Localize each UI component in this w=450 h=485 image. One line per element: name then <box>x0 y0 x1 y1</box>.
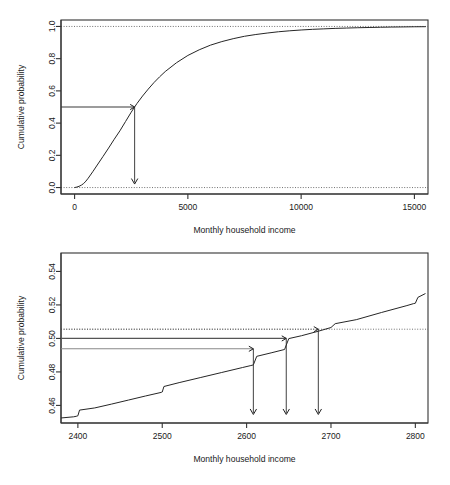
x-tick-label: 0 <box>72 202 77 212</box>
x-tick-label: 5000 <box>178 202 197 212</box>
y-tick-label: 0.54 <box>47 263 57 280</box>
x-tick-label: 2500 <box>153 431 172 441</box>
y-axis-title: Cumulative probability <box>16 64 26 149</box>
y-tick-label: 0.8 <box>47 52 57 64</box>
y-tick-label: 0.6 <box>47 85 57 97</box>
x-tick-label: 15000 <box>403 202 427 212</box>
chart-panel-zoom: 240025002600270028000.460.480.500.520.54… <box>0 243 450 485</box>
y-tick-label: 0.50 <box>47 330 57 347</box>
x-tick-label: 2600 <box>237 431 256 441</box>
y-tick-label: 0.2 <box>47 149 57 161</box>
y-tick-label: 0.52 <box>47 296 57 313</box>
cdf-full-range-svg: 0500010000150000.00.20.40.60.81.0Monthly… <box>0 0 450 243</box>
x-tick-label: 2400 <box>68 431 87 441</box>
cdf-curve <box>61 294 425 418</box>
y-tick-label: 0.48 <box>47 363 57 380</box>
y-tick-label: 0.46 <box>47 397 57 414</box>
y-axis-title: Cumulative probability <box>16 295 26 380</box>
cdf-zoom-svg: 240025002600270028000.460.480.500.520.54… <box>0 243 450 485</box>
y-tick-label: 0.0 <box>47 181 57 193</box>
figure-root: 0500010000150000.00.20.40.60.81.0Monthly… <box>0 0 450 485</box>
x-tick-label: 2700 <box>322 431 341 441</box>
chart-panel-full-range: 0500010000150000.00.20.40.60.81.0Monthly… <box>0 0 450 243</box>
y-tick-label: 1.0 <box>47 20 57 32</box>
x-axis-title: Monthly household income <box>193 454 295 464</box>
x-axis-title: Monthly household income <box>193 225 295 235</box>
y-tick-label: 0.4 <box>47 117 57 129</box>
x-tick-label: 10000 <box>289 202 313 212</box>
x-tick-label: 2800 <box>406 431 425 441</box>
